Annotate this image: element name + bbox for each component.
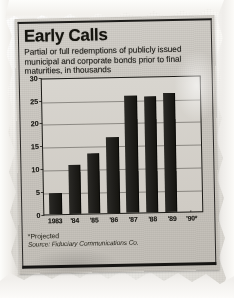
- y-axis-tick-label: 20: [31, 119, 39, 128]
- bar: [125, 96, 140, 213]
- bar: [49, 193, 62, 214]
- bar-slot: [159, 77, 181, 212]
- bar: [144, 96, 159, 212]
- x-axis-tick-label: '86: [104, 216, 124, 228]
- y-axis-tick-label: 30: [30, 74, 38, 83]
- bar-slot: [82, 78, 104, 213]
- bar-slot: [121, 77, 143, 212]
- y-axis-tick-label: 10: [31, 165, 39, 174]
- bar-slot: [44, 79, 66, 214]
- bar-slot: [101, 78, 123, 213]
- x-axis: 1983'84'85'86'87'88'89'90*: [43, 214, 203, 229]
- bar-slot: [63, 78, 85, 213]
- y-axis-tick-label: 5: [36, 188, 40, 197]
- plot-frame: [41, 75, 204, 215]
- x-axis-tick-label: '90*: [182, 214, 202, 226]
- bar-slot: [140, 77, 162, 212]
- y-axis-tick-label: 0: [36, 211, 40, 220]
- x-axis-tick-label: '85: [84, 216, 104, 228]
- newspaper-clipping: Early Calls Partial or full redemptions …: [15, 15, 220, 274]
- y-axis-tick-label: 15: [31, 142, 39, 151]
- bar: [87, 154, 100, 214]
- x-axis-tick-label: '84: [65, 216, 85, 228]
- y-axis: 051015202530: [25, 78, 43, 215]
- bar-series: [42, 76, 203, 214]
- chart-plot-area: 051015202530 1983'84'85'86'87'88'89'90*: [25, 75, 208, 230]
- bar-slot: [178, 76, 200, 211]
- bar: [68, 165, 81, 214]
- bar: [163, 93, 178, 212]
- chart-headline: Early Calls: [24, 23, 207, 46]
- x-axis-tick-label: '88: [143, 215, 163, 227]
- chart-subtitle: Partial or full redemptions of publicly …: [24, 44, 201, 76]
- bar: [190, 210, 192, 211]
- bar: [106, 137, 120, 213]
- y-axis-tick-label: 25: [30, 97, 38, 106]
- x-axis-tick-label: '87: [123, 215, 143, 227]
- x-axis-tick-label: 1983: [45, 217, 65, 229]
- x-axis-tick-label: '89: [162, 215, 182, 227]
- clipping-content: Early Calls Partial or full redemptions …: [24, 23, 212, 263]
